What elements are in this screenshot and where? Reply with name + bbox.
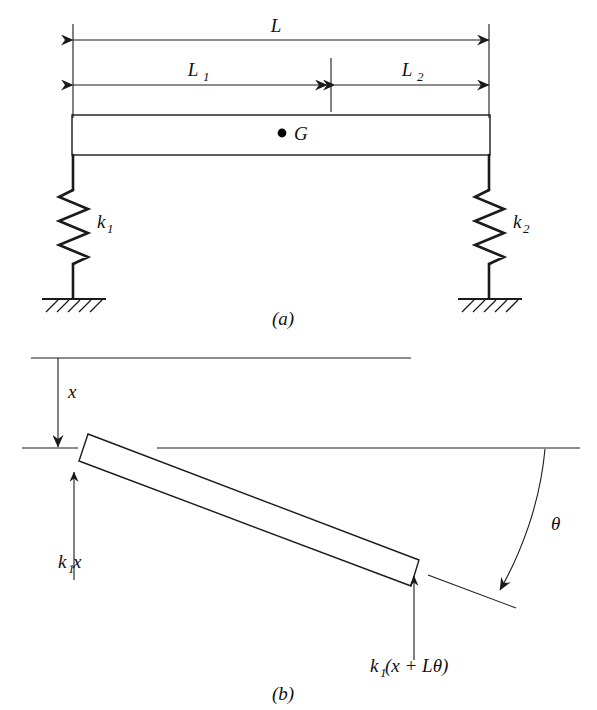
theta-reference-line — [428, 575, 516, 608]
theta-angle-label: θ — [551, 513, 560, 534]
panel-b-group: x k 1 x k 1 (x + Lθ) θ (b) — [22, 358, 580, 705]
left-spring-label-subscript: 1 — [107, 221, 114, 236]
right-spring-coil — [475, 190, 504, 264]
center-of-gravity-dot — [278, 129, 287, 138]
theta-angle-arc — [500, 449, 545, 590]
center-of-gravity-label: G — [294, 123, 308, 144]
left-spring-coil — [59, 190, 88, 264]
dimension-label-L1: L — [187, 59, 199, 80]
left-force-label: k — [58, 551, 67, 572]
panel-a-group: L L 1 L 2 G k 1 k 2 — [42, 15, 530, 330]
right-spring-label: k — [513, 211, 522, 232]
dimension-label-L1-subscript: 1 — [203, 69, 210, 84]
left-ground-hatching — [46, 300, 102, 312]
displacement-label-x: x — [67, 381, 77, 402]
left-force-label-variable: x — [72, 551, 82, 572]
dimension-label-L2: L — [401, 59, 413, 80]
caption-panel-b: (b) — [272, 683, 294, 705]
left-spring-label: k — [97, 211, 106, 232]
right-force-label: k — [370, 655, 379, 676]
engineering-diagram-svg: L L 1 L 2 G k 1 k 2 — [0, 0, 597, 710]
tilted-rigid-bar — [79, 434, 419, 586]
figure-container: L L 1 L 2 G k 1 k 2 — [0, 0, 597, 710]
right-spring-label-subscript: 2 — [523, 221, 530, 236]
caption-panel-a: (a) — [272, 308, 294, 330]
right-ground-hatching — [462, 300, 518, 312]
dimension-label-L: L — [270, 15, 282, 36]
right-force-label-expression: (x + Lθ) — [385, 655, 448, 677]
dimension-label-L2-subscript: 2 — [417, 69, 424, 84]
